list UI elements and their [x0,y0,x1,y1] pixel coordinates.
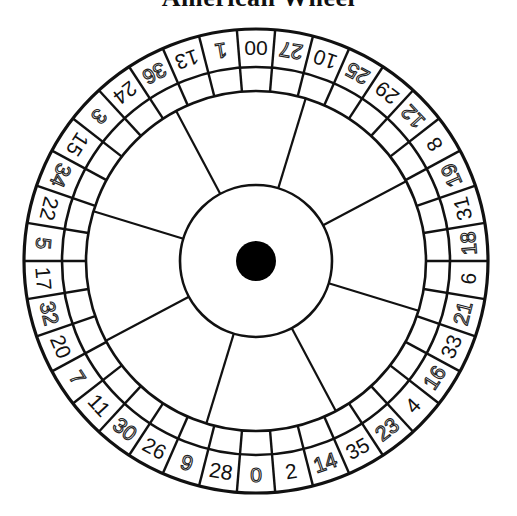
pocket-number-27: 27 [278,38,305,65]
pocket-number-14: 14 [310,448,340,477]
pocket-divider [424,289,485,299]
pocket-divider [237,30,242,92]
spoke [292,328,336,411]
pocket-number-35: 35 [342,433,373,464]
pocket-number-6: 6 [456,272,480,286]
pocket-number-11: 11 [83,389,115,421]
spoke [176,111,220,194]
pocket-number-12: 12 [396,100,429,133]
pocket-number-4: 4 [400,393,425,417]
pocket-number-13: 13 [172,45,202,74]
pocket-number-32: 32 [36,299,64,327]
spoke [93,211,183,238]
pocket-number-33: 33 [436,331,466,362]
pocket-number-15: 15 [62,128,94,160]
pocket-number-00: 00 [244,37,267,60]
pocket-divider [237,430,242,492]
pocket-number-18: 18 [456,231,481,256]
pocket-number-19: 19 [436,160,466,191]
pocket-divider [27,223,88,233]
pocket-number-3: 3 [87,105,112,129]
pocket-number-20: 20 [46,331,76,362]
pocket-number-29: 29 [371,77,404,109]
pocket-number-8: 8 [421,133,447,155]
pocket-divider [270,430,275,492]
roulette-wheel: 0027102529128193118621331642335142028926… [0,0,517,516]
pocket-number-30: 30 [109,413,142,445]
pocket-number-22: 22 [36,195,64,223]
pocket-number-1: 1 [213,39,228,64]
pocket-number-9: 9 [178,450,197,476]
pocket-number-10: 10 [310,45,340,74]
pocket-number-36: 36 [139,58,170,89]
spoke [329,283,419,310]
center-spindle-dot [236,241,276,281]
spoke [278,98,305,188]
pocket-number-5: 5 [32,237,56,251]
pocket-number-34: 34 [46,160,77,191]
pocket-number-21: 21 [448,299,476,327]
pocket-number-24: 24 [109,77,142,110]
pocket-number-31: 31 [448,195,476,223]
pocket-divider [270,30,275,92]
spoke [323,181,406,225]
pocket-number-17: 17 [31,266,56,291]
pocket-number-0: 0 [250,463,262,486]
pocket-number-26: 26 [139,433,170,464]
pocket-number-2: 2 [283,459,298,484]
spoke [106,297,189,341]
pocket-number-25: 25 [342,58,373,89]
pocket-number-28: 28 [208,458,235,485]
wheel-hub [180,185,332,337]
pocket-number-23: 23 [371,413,404,445]
pocket-number-16: 16 [418,361,450,393]
spoke [206,334,233,424]
pocket-number-7: 7 [65,366,91,388]
